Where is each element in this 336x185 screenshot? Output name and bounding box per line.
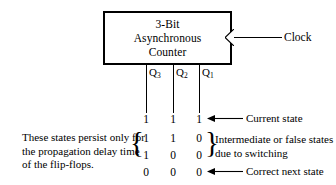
counter-timing-diagram: 3-Bit Asynchronous Counter Clock Q3 Q2 Q… bbox=[0, 0, 336, 185]
output-label-q2-base: Q bbox=[176, 66, 184, 78]
counter-block-line-3: Counter bbox=[149, 45, 187, 59]
output-label-q2: Q2 bbox=[176, 66, 188, 80]
bit-r2-c1: 0 bbox=[168, 149, 178, 162]
right-note-line-2: due to switching bbox=[215, 147, 333, 161]
output-line-q2 bbox=[173, 65, 174, 113]
bit-r2-c2: 0 bbox=[194, 149, 204, 162]
left-note: These states persist only for the propag… bbox=[22, 131, 145, 172]
left-note-line-3: of the flip-flops. bbox=[22, 158, 145, 172]
bit-r3-c2: 0 bbox=[194, 166, 204, 179]
left-note-line-2: the propagation delay time bbox=[22, 145, 145, 159]
clock-lead-line bbox=[234, 37, 282, 38]
output-label-q2-sub: 2 bbox=[184, 71, 188, 80]
bit-r0-c2: 1 bbox=[194, 113, 204, 126]
output-label-q1: Q1 bbox=[202, 66, 214, 80]
output-label-q3-sub: 3 bbox=[157, 71, 161, 80]
bit-r0-c0: 1 bbox=[141, 113, 151, 126]
output-line-q1 bbox=[199, 65, 200, 113]
bit-r3-c1: 0 bbox=[168, 166, 178, 179]
annotation-current-state: Current state bbox=[246, 112, 303, 125]
left-arrow-icon-correct-next-state bbox=[207, 167, 243, 176]
output-label-q3-base: Q bbox=[149, 66, 157, 78]
clock-input-triangle-icon bbox=[225, 29, 234, 46]
bit-r0-c1: 1 bbox=[168, 113, 178, 126]
bit-r1-c1: 1 bbox=[168, 132, 178, 145]
output-line-q3 bbox=[146, 65, 147, 113]
counter-block-line-1: 3-Bit bbox=[155, 17, 179, 31]
bit-r1-c2: 0 bbox=[194, 132, 204, 145]
annotation-correct-next-state: Correct next state bbox=[246, 165, 324, 178]
output-label-q1-base: Q bbox=[202, 66, 210, 78]
left-note-line-1: These states persist only for bbox=[22, 131, 145, 145]
counter-block: 3-Bit Asynchronous Counter bbox=[103, 11, 232, 65]
clock-label: Clock bbox=[284, 30, 311, 44]
output-label-q1-sub: 1 bbox=[210, 71, 214, 80]
counter-block-line-2: Asynchronous bbox=[134, 31, 202, 45]
left-arrow-icon-current-state bbox=[207, 114, 243, 123]
output-label-q3: Q3 bbox=[149, 66, 161, 80]
right-note: Intermediate or false states due to swit… bbox=[215, 133, 333, 160]
right-note-line-1: Intermediate or false states bbox=[215, 133, 333, 147]
